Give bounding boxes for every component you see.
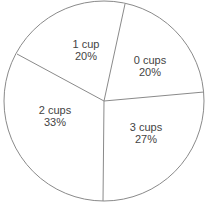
pie-chart: 1 cup 20% 0 cups 20% 2 cups 33% 3 cups 2…	[0, 0, 207, 202]
slice-name: 1 cup	[73, 38, 100, 50]
slice-name: 3 cups	[130, 121, 163, 133]
slice-percent: 27%	[135, 133, 157, 145]
slice-percent: 20%	[139, 66, 161, 78]
slice-percent: 20%	[75, 50, 97, 62]
slice-name: 2 cups	[39, 104, 72, 116]
slice-name: 0 cups	[134, 54, 167, 66]
slice-label-1-cup: 1 cup 20%	[73, 38, 100, 62]
slice-percent: 33%	[44, 116, 66, 128]
